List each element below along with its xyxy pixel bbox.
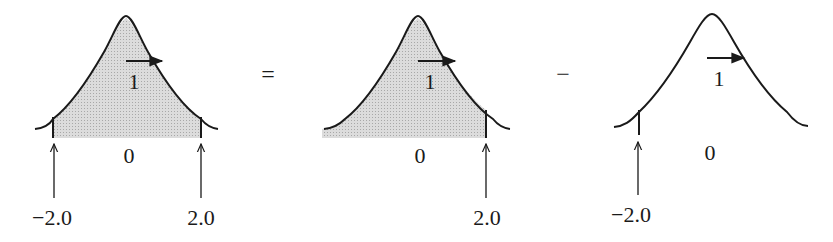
normal-area-diagram: 1 0 −2.0 2.0 = 1 0 2.0 − 1 0 −2.0	[0, 0, 833, 242]
normal-curve	[614, 14, 808, 127]
mean-label: 0	[124, 143, 135, 168]
panel-lower: 1 0 −2.0	[611, 14, 808, 227]
lower-bound-label: −2.0	[32, 205, 72, 230]
minus-sign: −	[556, 61, 570, 87]
lower-bound-label: −2.0	[611, 202, 651, 227]
panel-total: 1 0 −2.0 2.0	[32, 16, 218, 230]
sigma-label: 1	[425, 69, 436, 94]
upper-bound-label: 2.0	[473, 205, 501, 230]
sigma-label: 1	[714, 66, 725, 91]
shaded-area-between	[53, 18, 201, 138]
mean-label: 0	[415, 143, 426, 168]
upper-bound-label: 2.0	[187, 205, 215, 230]
mean-label: 0	[705, 140, 716, 165]
panel-upper: 1 0 2.0	[322, 16, 510, 230]
sigma-label: 1	[129, 69, 140, 94]
equals-sign: =	[261, 61, 275, 87]
